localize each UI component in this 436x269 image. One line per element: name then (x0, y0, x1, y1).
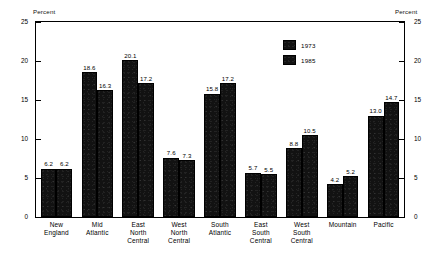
bar-1973-south-atlantic (204, 94, 220, 217)
y-axis-caption-right: Percent (395, 8, 417, 15)
bar-value-label-1985-mid-atlantic: 16.3 (95, 83, 116, 89)
x-axis-label-west-south-central: WestSouthCentral (281, 221, 322, 246)
x-axis-label-pacific: Pacific (363, 221, 404, 229)
bar-1985-east-south-central (261, 174, 277, 217)
chart-legend: 1973 1985 (283, 40, 345, 70)
bars-layer: 6.26.218.616.320.117.27.67.315.817.25.75… (36, 22, 404, 217)
legend-label-1985: 1985 (301, 57, 316, 64)
y-tick-label-right-0: 0 (414, 214, 418, 220)
y-tick-label-right-25: 25 (414, 19, 421, 25)
x-axis-label-west-north-central: WestNorthCentral (159, 221, 200, 246)
bar-value-label-1985-west-south-central: 10.5 (299, 128, 320, 134)
bar-value-label-1985-east-north-central: 17.2 (136, 76, 157, 82)
bar-1973-mid-atlantic (82, 72, 98, 217)
bar-value-label-1985-east-south-central: 5.5 (258, 167, 279, 173)
y-tick-label-left-20: 20 (21, 58, 28, 64)
legend-item-1973: 1973 (283, 40, 345, 53)
y-tick-label-right-5: 5 (414, 175, 418, 181)
y-tick-label-right-10: 10 (414, 136, 421, 142)
x-axis-label-mountain: Mountain (322, 221, 363, 229)
legend-label-1973: 1973 (301, 42, 316, 49)
bar-value-label-1985-south-atlantic: 17.2 (218, 76, 239, 82)
y-tick-label-left-5: 5 (24, 175, 28, 181)
bar-1985-mountain (343, 176, 359, 217)
bar-1985-mid-atlantic (97, 90, 113, 217)
bar-1985-south-atlantic (220, 83, 236, 217)
bar-1973-pacific (368, 116, 384, 217)
bar-1985-new-england (56, 169, 72, 217)
bar-1985-west-north-central (179, 160, 195, 217)
legend-swatch-1985 (283, 55, 296, 65)
bar-1973-east-north-central (122, 60, 138, 217)
bar-1973-mountain (327, 184, 343, 217)
y-tick-label-left-0: 0 (24, 214, 28, 220)
x-axis-label-east-north-central: EastNorthCentral (118, 221, 159, 246)
bar-1985-west-south-central (302, 135, 318, 217)
bar-1973-east-south-central (245, 173, 261, 217)
bar-value-label-1985-new-england: 6.2 (54, 161, 75, 167)
y-tick-label-left-25: 25 (21, 19, 28, 25)
y-tick-label-left-10: 10 (21, 136, 28, 142)
x-axis-label-mid-atlantic: MidAtlantic (77, 221, 118, 237)
bar-value-label-1985-west-north-central: 7.3 (177, 153, 198, 159)
legend-swatch-1973 (283, 40, 296, 50)
bar-1973-west-north-central (163, 158, 179, 217)
bar-1985-pacific (384, 102, 400, 217)
y-axis-caption-left: Percent (33, 8, 55, 15)
x-axis-label-south-atlantic: SouthAtlantic (200, 221, 241, 237)
bar-chart: Percent Percent 00551010151520202525 6.2… (0, 0, 436, 269)
legend-item-1985: 1985 (283, 55, 345, 68)
bar-1985-east-north-central (138, 83, 154, 217)
bar-1973-new-england (41, 169, 57, 217)
y-tick-label-right-20: 20 (414, 58, 421, 64)
bar-1973-west-south-central (286, 148, 302, 217)
y-tick-label-right-15: 15 (414, 97, 421, 103)
y-tick-label-left-15: 15 (21, 97, 28, 103)
bar-value-label-1985-pacific: 14.7 (381, 95, 402, 101)
bar-value-label-1973-mid-atlantic: 18.6 (79, 65, 100, 71)
x-axis-label-east-south-central: EastSouthCentral (240, 221, 281, 246)
bar-value-label-1973-east-north-central: 20.1 (120, 53, 141, 59)
x-axis-label-new-england: NewEngland (36, 221, 77, 237)
bar-value-label-1985-mountain: 5.2 (340, 169, 361, 175)
